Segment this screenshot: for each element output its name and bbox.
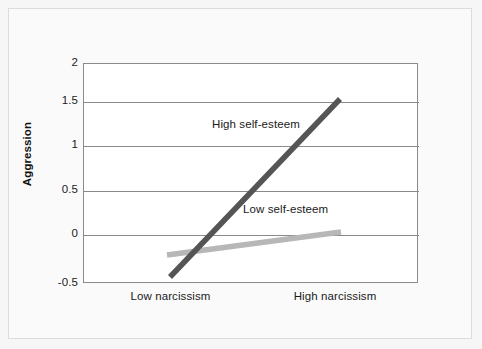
x-tick-label-low-narcissism: Low narcissism: [113, 290, 228, 302]
gridline-0.5: [84, 191, 419, 192]
y-tick-label: 1: [38, 139, 78, 150]
y-tick-label: 0: [38, 228, 78, 239]
y-axis-tick-labels: 2 1.5 1 0.5 0 -0.5: [33, 0, 78, 349]
series-label-high-self-esteem: High self-esteem: [212, 118, 300, 130]
chart-figure: 2 1.5 1 0.5 0 -0.5 Aggression Low narcis…: [0, 0, 482, 349]
y-axis-title: Aggression: [21, 109, 33, 199]
gridline-1: [84, 146, 419, 147]
gridline-0: [84, 235, 419, 236]
y-tick-label: 2: [38, 57, 78, 68]
y-tick-label: 1.5: [38, 95, 78, 106]
x-tick-label-high-narcissism: High narcissism: [275, 290, 395, 302]
y-tick-label: -0.5: [38, 277, 78, 288]
plot-area: [83, 63, 418, 283]
gridline-1.5: [84, 102, 419, 103]
y-tick-label: 0.5: [38, 184, 78, 195]
series-label-low-self-esteem: Low self-esteem: [243, 203, 328, 215]
